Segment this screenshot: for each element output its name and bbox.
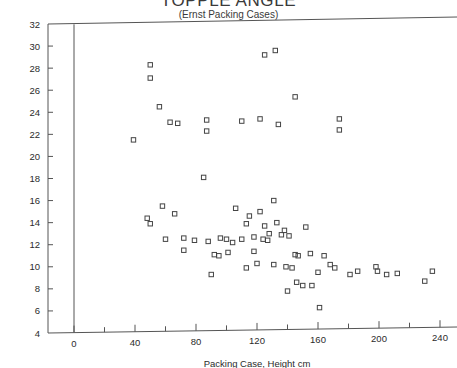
data-point-marker — [182, 248, 186, 252]
data-point-marker — [333, 266, 337, 270]
x-axis-line — [48, 327, 457, 333]
y-tick-label: 20 — [29, 151, 40, 162]
data-point-marker — [148, 222, 152, 226]
data-point-marker — [395, 271, 399, 275]
data-point-marker — [294, 280, 298, 284]
y-tick-label: 28 — [29, 63, 40, 74]
y-tick-label: 26 — [29, 85, 40, 96]
data-point-marker — [273, 48, 277, 52]
data-point-marker — [247, 214, 251, 218]
data-point-marker — [240, 119, 244, 123]
data-point-marker — [317, 305, 321, 309]
tick-labels-layer: 4681012141618202224262830320408012016020… — [29, 19, 448, 349]
data-point-marker — [230, 240, 234, 244]
axes-layer — [48, 17, 457, 333]
data-point-marker — [322, 254, 326, 258]
data-point-marker — [148, 63, 152, 67]
x-tick-label: 160 — [310, 334, 326, 345]
data-point-marker — [282, 228, 286, 232]
tick-marks-layer — [48, 46, 440, 333]
data-point-marker — [157, 105, 161, 109]
data-point-marker — [244, 266, 248, 270]
y-tick-label: 12 — [29, 239, 40, 250]
data-point-marker — [201, 175, 205, 179]
data-point-marker — [218, 236, 222, 240]
data-point-marker — [272, 262, 276, 266]
data-point-marker — [258, 209, 262, 213]
data-point-marker — [182, 236, 186, 240]
data-point-marker — [308, 251, 312, 255]
y-tick-label: 22 — [29, 129, 40, 140]
data-point-marker — [272, 198, 276, 202]
data-point-marker — [279, 233, 283, 237]
y-tick-label: 14 — [29, 217, 40, 228]
data-point-marker — [276, 122, 280, 126]
y-tick-label: 8 — [35, 283, 40, 294]
data-point-marker — [262, 53, 266, 57]
data-point-marker — [287, 234, 291, 238]
y-tick-label: 24 — [29, 107, 40, 118]
data-point-marker — [265, 238, 269, 242]
data-point-marker — [337, 117, 341, 121]
data-point-marker — [290, 266, 294, 270]
data-point-marker — [337, 128, 341, 132]
data-point-marker — [423, 279, 427, 283]
data-point-marker — [355, 269, 359, 273]
data-point-marker — [252, 235, 256, 239]
y-tick-label: 6 — [35, 305, 40, 316]
x-tick-label: 200 — [371, 333, 387, 344]
x-tick-label: 40 — [130, 337, 141, 348]
data-point-marker — [244, 222, 248, 226]
data-point-marker — [192, 238, 196, 242]
x-tick-label: 120 — [249, 335, 265, 346]
data-point-marker — [284, 265, 288, 269]
data-point-marker — [212, 252, 216, 256]
data-point-marker — [262, 224, 266, 228]
y-tick-label: 4 — [35, 328, 40, 339]
y-tick-label: 16 — [29, 195, 40, 206]
data-point-marker — [328, 262, 332, 266]
data-point-marker — [348, 272, 352, 276]
top-spine-line — [48, 17, 457, 24]
data-point-marker — [224, 237, 228, 241]
scatter-plot-area: 4681012141618202224262830320408012016020… — [0, 0, 457, 368]
data-point-marker — [176, 121, 180, 125]
x-axis-title: Packing Case, Height cm — [204, 358, 311, 368]
data-point-marker — [131, 138, 135, 142]
y-tick-label: 30 — [29, 41, 40, 52]
data-point-marker — [310, 283, 314, 287]
data-point-marker — [301, 283, 305, 287]
data-point-marker — [160, 204, 164, 208]
axis-title-layer: Packing Case, Height cm — [204, 358, 311, 368]
data-point-marker — [375, 269, 379, 273]
data-point-marker — [145, 216, 149, 220]
y-tick-label: 10 — [29, 261, 40, 272]
data-point-marker — [217, 254, 221, 258]
x-tick-label: 0 — [71, 338, 76, 349]
data-point-marker — [148, 76, 152, 80]
data-point-marker — [172, 212, 176, 216]
x-tick-label: 240 — [432, 332, 448, 343]
data-point-marker — [430, 269, 434, 273]
data-point-marker — [374, 265, 378, 269]
data-points-layer — [131, 48, 434, 310]
y-tick-label: 32 — [29, 19, 40, 30]
y-tick-label: 18 — [29, 173, 40, 184]
data-point-marker — [285, 289, 289, 293]
data-point-marker — [163, 237, 167, 241]
data-point-marker — [204, 129, 208, 133]
data-point-marker — [258, 117, 262, 121]
x-tick-label: 80 — [191, 336, 202, 347]
data-point-marker — [252, 249, 256, 253]
data-point-marker — [240, 237, 244, 241]
data-point-marker — [384, 272, 388, 276]
data-point-marker — [233, 206, 237, 210]
chart-figure: TOPPLE ANGLE (Ernst Packing Cases) 46810… — [0, 0, 457, 368]
data-point-marker — [304, 225, 308, 229]
data-point-marker — [206, 239, 210, 243]
data-point-marker — [267, 231, 271, 235]
data-point-marker — [209, 272, 213, 276]
data-point-marker — [168, 120, 172, 124]
data-point-marker — [275, 220, 279, 224]
data-point-marker — [255, 261, 259, 265]
